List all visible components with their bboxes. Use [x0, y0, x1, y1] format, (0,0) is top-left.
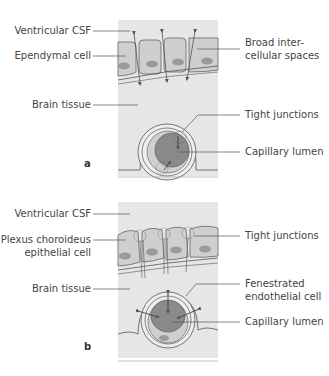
panel-b-diagram: [118, 202, 218, 361]
panel-letter-a: a: [84, 158, 91, 169]
label-brain-tissue-b: Brain tissue: [32, 283, 91, 295]
label-broad-intercellular-1: Broad inter-: [245, 37, 304, 49]
panel-a-diagram: [118, 20, 218, 180]
label-tight-junctions-a: Tight junctions: [245, 109, 319, 121]
label-ependymal-cell: Ependymal cell: [15, 50, 91, 62]
label-ventricular-csf-a: Ventricular CSF: [15, 25, 91, 37]
label-ventricular-csf-b: Ventricular CSF: [15, 208, 91, 220]
label-fenestrated-2: endothelial cell: [245, 291, 321, 303]
panel-letter-b: b: [84, 341, 91, 352]
ependymal-cells: [118, 38, 218, 76]
label-plexus-1: Plexus choroideus: [1, 234, 91, 246]
label-capillary-lumen-b: Capillary lumen: [245, 316, 323, 328]
label-plexus-2: epithelial cell: [24, 247, 91, 259]
label-broad-intercellular-2: cellular spaces: [245, 50, 319, 62]
label-fenestrated-1: Fenestrated: [245, 278, 305, 290]
label-capillary-lumen-a: Capillary lumen: [245, 146, 323, 158]
label-brain-tissue-a: Brain tissue: [32, 99, 91, 111]
label-tight-junctions-b: Tight junctions: [245, 230, 319, 242]
